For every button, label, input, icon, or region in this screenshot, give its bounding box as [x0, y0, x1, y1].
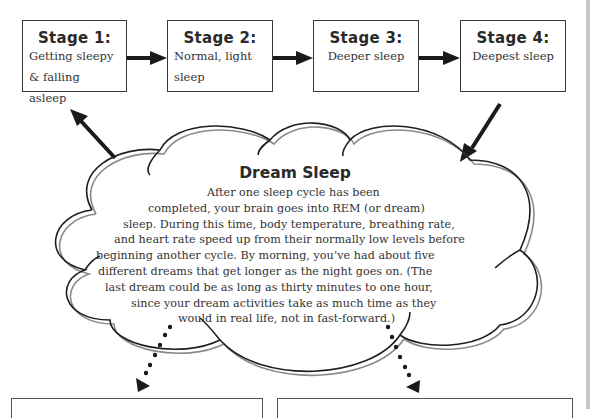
dream-text-line-9: would in real life, not in fast-forward.… — [178, 311, 395, 327]
dream-sleep-title: Dream Sleep — [0, 164, 590, 182]
bottom-right-box — [277, 398, 573, 418]
dotted-arrow-right — [386, 325, 420, 393]
arrow-cloud-to-stage1 — [70, 109, 115, 158]
dream-text-line-5: beginning another cycle. By morning, you… — [96, 248, 435, 264]
dream-text-line-7: last dream could be as long as thirty mi… — [105, 280, 433, 296]
dream-text-line-1: After one sleep cycle has been — [207, 185, 380, 201]
arrow-stage4-to-cloud — [460, 104, 500, 162]
arrow-stage1-to-stage2 — [127, 51, 167, 65]
dream-text-line-8: since your dream activities take as much… — [131, 296, 436, 312]
dream-text-line-2: completed, your brain goes into REM (or … — [148, 201, 425, 217]
arrow-stage3-to-stage4 — [419, 51, 460, 65]
dream-text-line-3: sleep. During this time, body temperatur… — [123, 217, 455, 233]
dream-text-line-6: different dreams that get longer as the … — [98, 264, 432, 280]
arrow-stage2-to-stage3 — [273, 51, 313, 65]
dotted-arrow-left — [136, 325, 172, 392]
dream-text-line-4: and heart rate speed up from their norma… — [114, 232, 465, 248]
bottom-left-box — [11, 398, 263, 418]
